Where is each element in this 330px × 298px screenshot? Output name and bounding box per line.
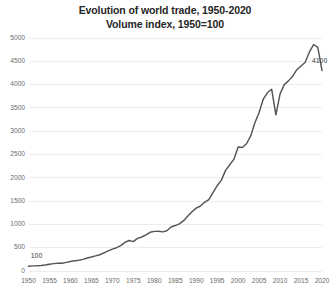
y-axis-tick-label: 2500	[10, 150, 25, 157]
chart-container: Evolution of world trade, 1950-2020 Volu…	[0, 0, 330, 298]
y-axis-tick-label: 1500	[10, 197, 25, 204]
y-axis-tick-label: 3000	[10, 127, 25, 134]
y-axis-tick-label: 500	[14, 243, 25, 250]
y-axis-tick-label: 1000	[10, 220, 25, 227]
y-axis-tick-label: 4500	[10, 57, 25, 64]
x-axis-tick-label: 2000	[231, 277, 246, 284]
x-axis-tick-label: 1985	[168, 277, 183, 284]
y-axis-tick-label: 5000	[10, 34, 25, 41]
y-axis-tick-label: 2000	[10, 174, 25, 181]
y-axis-tick-label: 4000	[10, 80, 25, 87]
x-axis-tick-label: 1980	[147, 277, 162, 284]
x-axis-tick-label: 1960	[63, 277, 78, 284]
gridlines	[29, 38, 323, 271]
line-chart-plot: 0500100015002000250030003500400045005000…	[0, 0, 330, 298]
x-axis-tick-label: 1975	[126, 277, 141, 284]
x-axis-tick-label: 1970	[105, 277, 120, 284]
x-axis-tick-label: 1950	[21, 277, 36, 284]
x-axis-tick-label: 2010	[273, 277, 288, 284]
world-trade-series-line	[29, 45, 323, 267]
data-point-label: 4100	[312, 57, 327, 64]
x-axis-tick-label: 1990	[189, 277, 204, 284]
x-axis-tick-label: 2005	[252, 277, 267, 284]
x-axis-tick-label: 1955	[42, 277, 57, 284]
data-point-label: 100	[31, 252, 43, 259]
x-axis-tick-label: 1965	[84, 277, 99, 284]
x-axis-tick-label: 2020	[315, 277, 330, 284]
x-axis-tick-label: 1995	[210, 277, 225, 284]
y-axis-tick-labels: 0500100015002000250030003500400045005000	[10, 34, 25, 274]
y-axis-tick-label: 3500	[10, 104, 25, 111]
x-axis-tick-labels: 1950195519601965197019751980198519901995…	[21, 277, 330, 284]
y-axis-tick-label: 0	[21, 267, 25, 274]
x-axis-tick-label: 2015	[294, 277, 309, 284]
